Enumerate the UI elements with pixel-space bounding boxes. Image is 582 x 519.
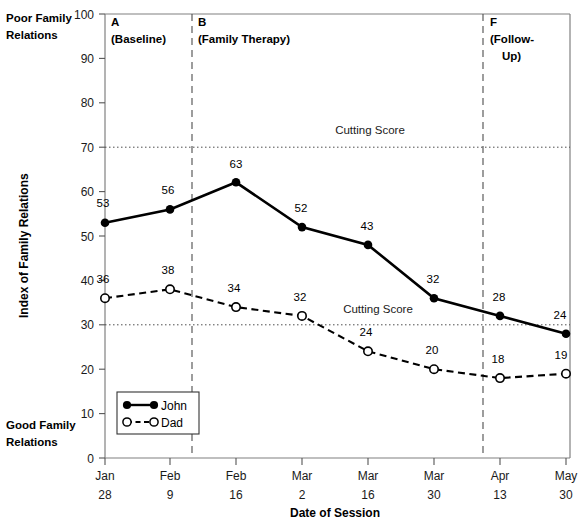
y-axis-ticks	[99, 14, 105, 458]
phase-a-name: (Baseline)	[111, 33, 166, 45]
x-tick-month: Apr	[491, 469, 510, 483]
value-label-john: 56	[162, 184, 175, 196]
value-label-john: 53	[97, 197, 110, 209]
x-tick-month: Mar	[358, 469, 379, 483]
data-point-dad	[166, 285, 174, 293]
good-label-line2: Relations	[6, 436, 58, 448]
data-point-dad	[232, 303, 240, 311]
y-tick-label: 50	[81, 230, 95, 244]
data-point-dad	[364, 347, 372, 355]
data-point-dad	[496, 374, 504, 382]
y-tick-label: 40	[81, 274, 95, 288]
x-tick-day: 16	[361, 488, 375, 502]
value-label-dad: 24	[360, 326, 373, 338]
phase-label-b: B (Family Therapy)	[198, 16, 290, 45]
x-tick-day: 28	[98, 488, 112, 502]
phase-f-letter: F	[490, 16, 497, 28]
value-label-john: 32	[427, 273, 440, 285]
phase-b-name: (Family Therapy)	[198, 33, 290, 45]
cutting-score-label-bottom: Cutting Score	[343, 303, 413, 315]
phase-label-f: F (Follow- Up)	[490, 16, 534, 62]
value-label-dad: 38	[162, 264, 175, 276]
value-label-dad: 34	[228, 282, 241, 294]
x-tick-month: May	[555, 469, 578, 483]
data-point-dad	[298, 312, 306, 320]
y-tick-label: 70	[81, 141, 95, 155]
y-tick-label: 20	[81, 363, 95, 377]
legend-label-john: John	[161, 399, 187, 413]
data-point-john	[232, 178, 241, 187]
data-point-dad	[430, 365, 438, 373]
phase-label-a: A (Baseline)	[111, 16, 166, 45]
x-tick-day: 13	[493, 488, 507, 502]
data-point-john	[166, 205, 175, 214]
x-axis-ticks	[105, 458, 566, 465]
legend-label-dad: Dad	[161, 416, 183, 430]
poor-label-line2: Relations	[6, 29, 58, 41]
x-tick-day: 30	[427, 488, 441, 502]
value-label-john: 24	[554, 309, 567, 321]
x-tick-day: 9	[167, 488, 174, 502]
value-labels-john: 53 56 63 52 43 32 28 24	[97, 158, 567, 321]
y-axis-tick-labels: 100 90 80 70 60 50 40 30 20 10 0	[74, 8, 94, 466]
value-label-dad: 36	[97, 273, 110, 285]
good-family-relations-label: Good Family Relations	[6, 419, 76, 448]
y-axis-title: Index of Family Relations	[17, 173, 31, 318]
legend: John Dad	[117, 392, 199, 434]
x-tick-month: Mar	[292, 469, 313, 483]
value-label-john: 63	[230, 158, 243, 170]
y-tick-label: 100	[74, 8, 94, 22]
phase-f-name2: Up)	[502, 50, 521, 62]
data-point-john	[298, 223, 307, 232]
x-tick-month: Feb	[226, 469, 247, 483]
x-tick-month: Mar	[424, 469, 445, 483]
value-label-john: 52	[295, 202, 308, 214]
y-tick-label: 10	[81, 407, 95, 421]
x-axis-tick-labels: Jan 28 Feb 9 Feb 16 Mar 2 Mar 16 Mar 30 …	[95, 469, 577, 502]
x-tick-month: Feb	[160, 469, 181, 483]
x-axis-title: Date of Session	[290, 506, 380, 519]
data-point-john	[562, 330, 571, 339]
y-tick-label: 30	[81, 318, 95, 332]
data-point-dad	[101, 294, 109, 302]
y-tick-label: 0	[87, 452, 94, 466]
x-tick-month: Jan	[95, 469, 114, 483]
value-label-dad: 32	[294, 291, 307, 303]
poor-family-relations-label: Poor Family Relations	[6, 12, 72, 41]
phase-b-letter: B	[198, 16, 206, 28]
data-point-john	[430, 294, 439, 303]
value-label-dad: 19	[555, 349, 568, 361]
y-tick-label: 60	[81, 185, 95, 199]
x-tick-day: 30	[559, 488, 573, 502]
chart-canvas: 100 90 80 70 60 50 40 30 20 10 0 Poor Fa…	[0, 0, 582, 519]
phase-f-name: (Follow-	[490, 33, 534, 45]
x-tick-day: 16	[229, 488, 243, 502]
value-label-dad: 20	[426, 344, 439, 356]
phase-a-letter: A	[111, 16, 119, 28]
value-label-john: 28	[493, 291, 506, 303]
data-point-john	[101, 218, 110, 227]
cutting-score-label-top: Cutting Score	[335, 124, 405, 136]
poor-label-line1: Poor Family	[6, 12, 72, 24]
x-tick-day: 2	[299, 488, 306, 502]
data-point-john	[496, 312, 505, 321]
data-point-john	[364, 241, 373, 250]
family-relations-chart: 100 90 80 70 60 50 40 30 20 10 0 Poor Fa…	[0, 0, 582, 519]
value-label-dad: 18	[492, 353, 505, 365]
cutting-score-line-70: Cutting Score	[105, 122, 570, 147]
data-point-dad	[562, 370, 570, 378]
y-tick-label: 90	[81, 52, 95, 66]
value-label-john: 43	[361, 220, 374, 232]
good-label-line1: Good Family	[6, 419, 76, 431]
y-tick-label: 80	[81, 96, 95, 110]
